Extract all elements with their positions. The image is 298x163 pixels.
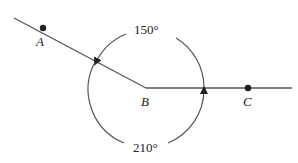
point-a (40, 25, 46, 31)
arc-150-left (96, 34, 126, 62)
arc-210-right (168, 90, 204, 143)
ray-ba (14, 18, 146, 88)
point-c (245, 85, 251, 91)
label-a: A (35, 34, 44, 49)
angle-label-210: 210° (133, 140, 158, 155)
label-b: B (141, 94, 149, 109)
angle-label-150: 150° (134, 22, 159, 37)
angle-diagram: A B C 150° 210° (0, 0, 298, 163)
label-c: C (243, 94, 252, 109)
arc-150 (176, 38, 204, 88)
